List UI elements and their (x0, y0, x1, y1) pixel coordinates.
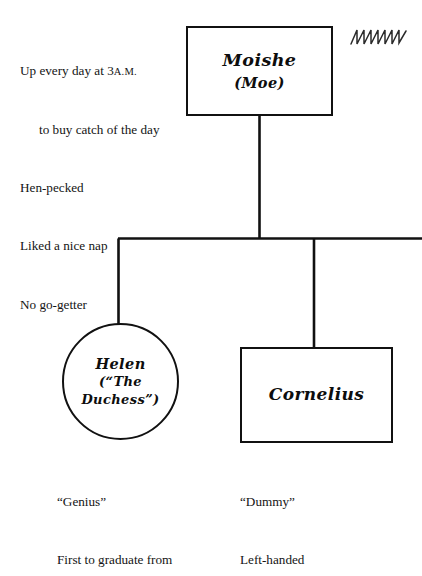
annotation-cornelius-line-1: “Dummy” (240, 492, 420, 511)
annotation-moishe: Up every day at 3A.M. to buy catch of th… (20, 22, 180, 353)
node-helen-alias-line2: Duchess”) (81, 392, 159, 408)
annotation-cornelius: “Dummy” Left-handed Attended night schoo… (240, 453, 420, 576)
annotation-moishe-line-4: Liked a nice nap (20, 236, 180, 255)
node-moishe[interactable]: Moishe (Moe) (186, 26, 333, 116)
annotation-helen: “Genius” First to graduate from college … (57, 453, 227, 576)
node-cornelius[interactable]: Cornelius (240, 347, 393, 443)
annotation-helen-line-1: “Genius” (57, 492, 227, 511)
annotation-cornelius-line-2: Left-handed (240, 550, 420, 569)
annotation-moishe-line-2: to buy catch of the day (20, 120, 180, 139)
node-cornelius-name: Cornelius (269, 384, 364, 405)
node-moishe-name: Moishe (223, 50, 297, 72)
annotation-moishe-line-1-smallcaps: A.M. (114, 66, 137, 77)
node-helen-name: Helen (95, 355, 145, 373)
zigzag-icon (351, 30, 406, 44)
family-tree-diagram: Moishe (Moe) Helen (“The Duchess”) Corne… (0, 0, 422, 576)
annotation-moishe-line-1: Up every day at 3A.M. (20, 61, 180, 81)
annotation-helen-line-2: First to graduate from (57, 550, 227, 569)
annotation-moishe-line-5: No go-getter (20, 295, 180, 314)
node-moishe-alias: (Moe) (234, 74, 285, 92)
node-helen-alias-line1: (“The (99, 374, 142, 390)
annotation-moishe-line-3: Hen-pecked (20, 178, 180, 197)
annotation-moishe-line-1-text: Up every day at 3 (20, 63, 114, 78)
